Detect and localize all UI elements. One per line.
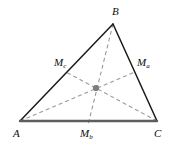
midpoint-label-mc-sub: c xyxy=(63,62,66,70)
side-bc xyxy=(113,24,157,121)
midpoint-label-ma-main: M xyxy=(137,56,146,68)
vertex-label-c: C xyxy=(154,128,161,139)
centroid-marker xyxy=(93,85,99,91)
midpoint-label-mb-main: M xyxy=(80,127,89,139)
side-ab xyxy=(20,24,113,121)
median-from-a-to-ma xyxy=(20,72,135,121)
vertex-label-a: A xyxy=(13,128,20,139)
midpoint-label-mb-sub: b xyxy=(89,133,93,141)
midpoint-label-ma-sub: a xyxy=(146,62,150,70)
triangle-sides-group xyxy=(20,24,157,121)
vertex-label-b: B xyxy=(112,6,119,17)
median-from-c-to-mc xyxy=(66,72,157,121)
midpoint-label-ma: Ma xyxy=(137,57,150,68)
median-from-b-to-mb xyxy=(88,24,113,125)
midpoint-label-mb: Mb xyxy=(80,128,93,139)
midpoint-label-mc: Mc xyxy=(54,57,66,68)
midpoint-label-mc-main: M xyxy=(54,56,63,68)
triangle-median-diagram: B A C Mc Ma Mb xyxy=(0,0,177,149)
